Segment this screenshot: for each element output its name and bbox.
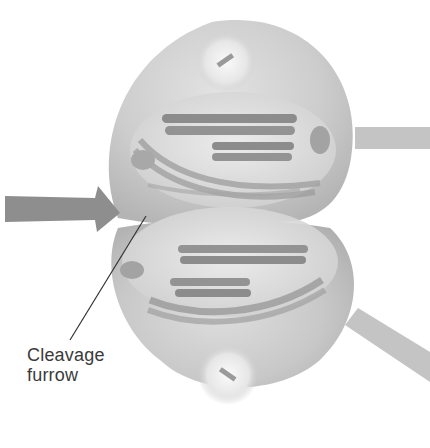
chromosome xyxy=(212,153,292,161)
chromosome xyxy=(212,142,294,150)
chromosome xyxy=(180,256,306,264)
upper-daughter-cell xyxy=(109,20,353,226)
connector-band-right-lower xyxy=(345,308,430,382)
chromosome xyxy=(170,278,250,286)
cleavage-furrow-label-line1: Cleavage xyxy=(27,345,105,365)
cleavage-furrow-label-line2: furrow xyxy=(27,365,78,385)
centrosome-bottom xyxy=(198,345,258,405)
cleavage-furrow-pointer-arrow xyxy=(5,186,120,232)
chromosome xyxy=(162,114,297,123)
chromosome xyxy=(175,289,251,297)
chromosome xyxy=(178,245,308,253)
chromosome xyxy=(165,126,295,135)
centrosome-top xyxy=(196,32,256,92)
connector-band-right-upper xyxy=(355,127,430,149)
lower-daughter-cell xyxy=(111,207,354,405)
